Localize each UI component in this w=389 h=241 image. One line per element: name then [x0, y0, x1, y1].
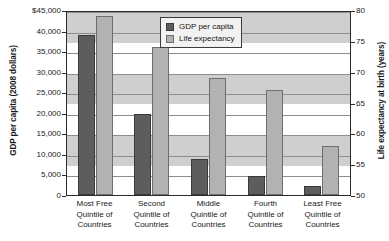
x-axis-category-label: Least FreeQuintile ofCountries [295, 199, 351, 231]
bar-group [304, 12, 339, 195]
category-label-line: Fourth [238, 199, 294, 210]
y-axis-right-tick-label: 60 [356, 130, 365, 138]
category-label-line: Countries [67, 220, 123, 231]
bar-group [78, 12, 113, 195]
y-axis-right-tick-label: 55 [356, 161, 365, 169]
axis-tickmark [62, 196, 66, 197]
category-label-line: Least Free [295, 199, 351, 210]
legend-item-label: Life expectancy [179, 34, 235, 43]
axis-tickmark [351, 134, 355, 135]
category-label-line: Countries [181, 220, 237, 231]
bar-gdp-per-capita [134, 114, 151, 195]
x-axis-category-label: FourthQuintile ofCountries [238, 199, 294, 231]
bar-life-expectancy [266, 90, 283, 195]
y-axis-left-tick-label: $45,000 [32, 7, 61, 15]
legend-swatch-gdp [166, 23, 174, 31]
y-axis-right-title: Life expectancy at birth (years) [377, 21, 386, 181]
bar-gdp-per-capita [78, 35, 95, 195]
bar-life-expectancy [152, 47, 169, 195]
legend-swatch-life [166, 35, 174, 43]
x-axis-category-label: SecondQuintile ofCountries [124, 199, 180, 231]
category-label-line: Middle [181, 199, 237, 210]
category-label-line: Quintile of [238, 210, 294, 221]
axis-tickmark [351, 73, 355, 74]
x-axis-category-label: MiddleQuintile ofCountries [181, 199, 237, 231]
bar-life-expectancy [322, 146, 339, 195]
category-label-line: Countries [124, 220, 180, 231]
bar-life-expectancy [96, 16, 113, 195]
chart-container: GDP per capita (2008 dollars) Life expec… [0, 0, 389, 241]
chart-legend: GDP per capitaLife expectancy [160, 17, 242, 48]
axis-tickmark [351, 104, 355, 105]
bar-life-expectancy [209, 78, 226, 195]
x-axis-category-label: Most FreeQuintile ofCountries [67, 199, 123, 231]
legend-item: GDP per capita [166, 22, 235, 31]
y-axis-left-tick-label: 40,000 [37, 28, 61, 36]
category-label-line: Quintile of [181, 210, 237, 221]
bar-gdp-per-capita [248, 176, 265, 195]
axis-tickmark [351, 11, 355, 12]
category-label-line: Quintile of [67, 210, 123, 221]
category-label-line: Quintile of [124, 210, 180, 221]
bar-gdp-per-capita [191, 159, 208, 195]
y-axis-left-tick-label: 35,000 [37, 48, 61, 56]
category-label-line: Most Free [67, 199, 123, 210]
axis-tickmark [351, 42, 355, 43]
y-axis-left-tick-label: 10,000 [37, 151, 61, 159]
category-label-line: Countries [295, 220, 351, 231]
y-axis-left-tick-label: 0 [57, 192, 61, 200]
x-axis-category-labels: Most FreeQuintile ofCountriesSecondQuint… [66, 199, 351, 231]
category-label-line: Countries [238, 220, 294, 231]
y-axis-right-tick-label: 75 [356, 38, 365, 46]
y-axis-right-tick-label: 70 [356, 69, 365, 77]
y-axis-left-tick-label: 5,000 [41, 171, 61, 179]
legend-item-label: GDP per capita [179, 22, 234, 31]
category-label-line: Quintile of [295, 210, 351, 221]
axis-tickmark [351, 165, 355, 166]
axis-tickmark [351, 196, 355, 197]
y-axis-right-tick-label: 65 [356, 100, 365, 108]
y-axis-right-tick-label: 50 [356, 192, 365, 200]
y-axis-right-tick-label: 80 [356, 7, 365, 15]
y-axis-left-tick-label: 15,000 [37, 130, 61, 138]
y-axis-left-title: GDP per capita (2008 dollars) [9, 21, 18, 181]
y-axis-left-tick-label: 20,000 [37, 110, 61, 118]
bar-group [248, 12, 283, 195]
y-axis-left-tick-label: 25,000 [37, 89, 61, 97]
bar-gdp-per-capita [304, 186, 321, 195]
y-axis-left-tick-label: 30,000 [37, 69, 61, 77]
legend-item: Life expectancy [166, 34, 235, 43]
category-label-line: Second [124, 199, 180, 210]
